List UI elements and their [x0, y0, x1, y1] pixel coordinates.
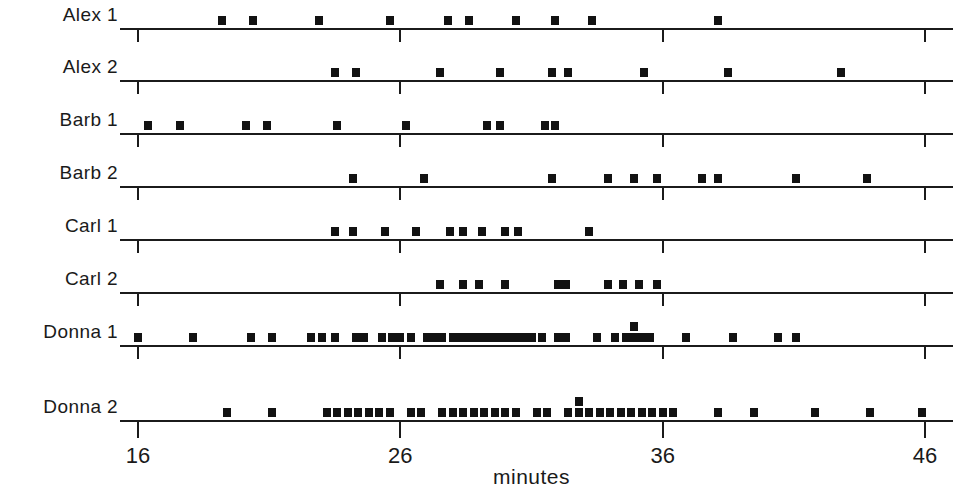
data-point [630, 322, 638, 331]
data-point [548, 174, 556, 183]
data-point [459, 280, 467, 289]
data-point [520, 333, 528, 342]
data-point [352, 68, 360, 77]
row-label-slot: Carl 1 [0, 216, 118, 236]
data-point [659, 408, 667, 417]
data-point [575, 397, 583, 406]
row-label: Carl 2 [65, 269, 118, 288]
data-point [866, 408, 874, 417]
data-point [446, 227, 454, 236]
data-point [249, 16, 257, 25]
axis-tick [137, 188, 139, 200]
data-point [588, 16, 596, 25]
data-point [548, 68, 556, 77]
data-point [365, 408, 373, 417]
axis-tick [924, 82, 926, 94]
axis-tick [662, 188, 664, 200]
axis-tick [662, 347, 664, 359]
data-point [457, 333, 465, 342]
axis-tick [662, 135, 664, 147]
row-axis-line [120, 186, 953, 188]
data-point [475, 280, 483, 289]
axis-tick [924, 241, 926, 253]
data-point [774, 333, 782, 342]
data-point [331, 68, 339, 77]
axis-tick [137, 347, 139, 359]
data-point [472, 333, 480, 342]
data-point [449, 408, 457, 417]
row-label-slot: Alex 1 [0, 5, 118, 25]
data-point [562, 333, 570, 342]
axis-tick [662, 82, 664, 94]
axis-tick [399, 294, 401, 306]
data-point [604, 174, 612, 183]
axis-tick [662, 422, 664, 438]
data-point [638, 333, 646, 342]
data-point [478, 227, 486, 236]
row-label: Alex 1 [63, 5, 118, 24]
data-point [386, 408, 394, 417]
data-point [438, 333, 446, 342]
data-point [501, 227, 509, 236]
data-point [331, 227, 339, 236]
x-tick-label: 36 [650, 445, 674, 467]
data-point [551, 121, 559, 130]
axis-tick [924, 135, 926, 147]
data-point [714, 174, 722, 183]
axis-tick [399, 241, 401, 253]
data-point [496, 333, 504, 342]
axis-tick [399, 82, 401, 94]
data-point [669, 408, 677, 417]
data-point [837, 68, 845, 77]
data-point [585, 408, 593, 417]
data-point [512, 408, 520, 417]
row-label: Alex 2 [63, 57, 118, 76]
data-point [218, 16, 226, 25]
data-point [331, 333, 339, 342]
row-label: Barb 1 [60, 110, 118, 129]
data-point [223, 408, 231, 417]
data-point [436, 280, 444, 289]
data-point [630, 174, 638, 183]
x-tick-label: 46 [913, 445, 937, 467]
data-point [420, 174, 428, 183]
data-point [268, 333, 276, 342]
row-label: Donna 1 [43, 322, 118, 341]
axis-tick [137, 422, 139, 438]
data-point [646, 333, 654, 342]
data-point [564, 408, 572, 417]
data-point [514, 227, 522, 236]
row-label: Carl 1 [65, 216, 118, 235]
row-label: Barb 2 [60, 163, 118, 182]
data-point [604, 280, 612, 289]
axis-tick [924, 422, 926, 438]
data-point [554, 333, 562, 342]
data-point [318, 333, 326, 342]
data-point [449, 333, 457, 342]
data-point [653, 174, 661, 183]
axis-tick [399, 30, 401, 42]
data-point [635, 280, 643, 289]
data-point [792, 333, 800, 342]
data-point [263, 121, 271, 130]
data-point [562, 280, 570, 289]
axis-tick [137, 294, 139, 306]
data-point [388, 333, 396, 342]
row-label-slot: Barb 2 [0, 163, 118, 183]
data-point [551, 16, 559, 25]
data-point [360, 333, 368, 342]
data-point [349, 174, 357, 183]
data-point [619, 280, 627, 289]
data-point [465, 16, 473, 25]
data-point [407, 408, 415, 417]
data-point [627, 408, 635, 417]
data-point [396, 333, 404, 342]
data-point [617, 408, 625, 417]
data-point [792, 174, 800, 183]
data-point [648, 408, 656, 417]
data-point [538, 333, 546, 342]
data-point [189, 333, 197, 342]
data-point [528, 333, 536, 342]
data-point [543, 408, 551, 417]
data-point [402, 121, 410, 130]
